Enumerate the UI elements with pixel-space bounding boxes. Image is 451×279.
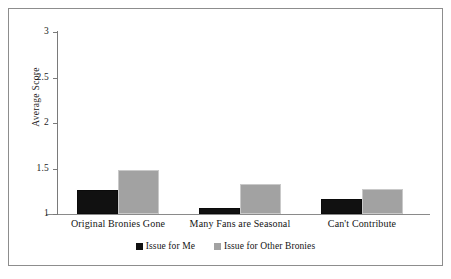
y-tick-label: 2.5 <box>18 73 49 83</box>
x-axis-label-2: Can't Contribute <box>301 218 423 230</box>
y-tick-mark <box>53 214 58 215</box>
y-tick-label-box: 2.5 <box>18 73 49 83</box>
legend-swatch-icon <box>214 243 221 250</box>
y-tick-label: 1 <box>18 209 49 219</box>
legend-item-1[interactable]: Issue for Other Bronies <box>214 241 315 251</box>
y-tick-label-box: 3 <box>18 27 49 37</box>
x-axis-line <box>46 214 430 215</box>
legend-label: Issue for Me <box>146 241 195 251</box>
y-tick-label-box: 2 <box>18 118 49 128</box>
y-tick-label-box: 1 <box>18 209 49 219</box>
x-axis-label-1: Many Fans are Seasonal <box>179 218 301 230</box>
legend-swatch-icon <box>136 243 143 250</box>
bar-0-2 <box>321 199 362 214</box>
legend-item-0[interactable]: Issue for Me <box>136 241 195 251</box>
bar-0-0 <box>77 190 118 214</box>
chart-figure: Average Score 11.522.53 Original Bronies… <box>0 0 451 279</box>
bar-1-2 <box>362 189 403 214</box>
y-tick-label-box: 1.5 <box>18 164 49 174</box>
bar-0-1 <box>199 208 240 214</box>
plot-area <box>57 32 423 214</box>
x-axis-label-0: Original Bronies Gone <box>57 218 179 230</box>
y-tick-label: 2 <box>18 118 49 128</box>
y-axis-title: Average Score <box>31 42 41 152</box>
bar-1-0 <box>118 170 159 214</box>
chart-legend: Issue for MeIssue for Other Bronies <box>0 241 451 251</box>
legend-label: Issue for Other Bronies <box>224 241 315 251</box>
y-tick-label: 1.5 <box>18 164 49 174</box>
bar-1-1 <box>240 184 281 214</box>
y-tick-label: 3 <box>18 27 49 37</box>
